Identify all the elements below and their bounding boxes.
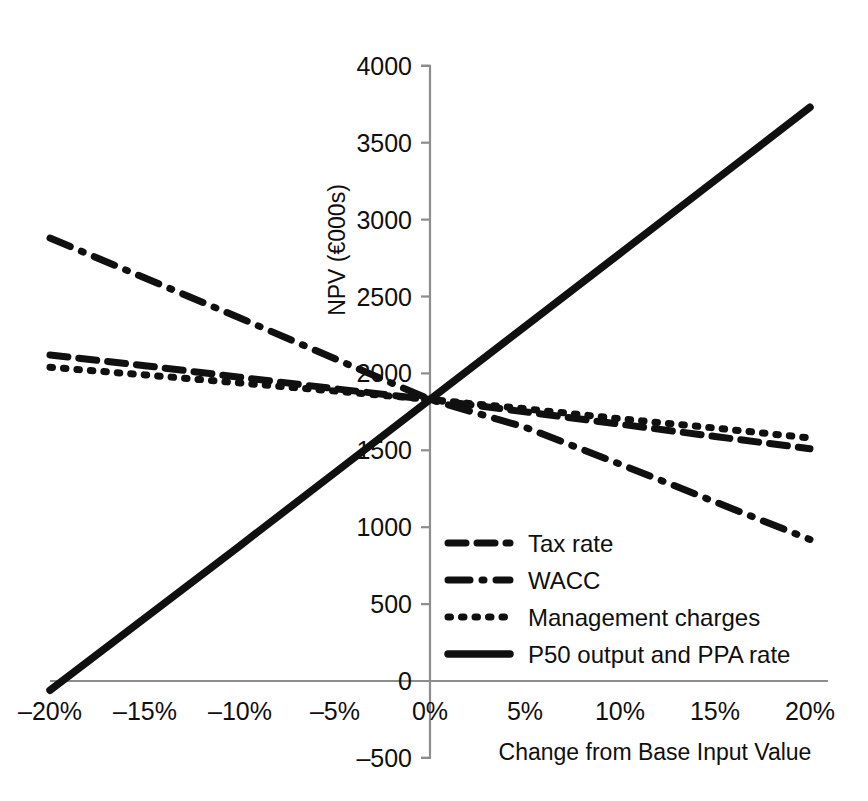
x-tick-label: –5% xyxy=(310,697,360,725)
y-axis-ticks xyxy=(421,66,430,758)
x-tick-label: –20% xyxy=(18,697,82,725)
x-tick-label: 10% xyxy=(595,697,645,725)
x-tick-label: 15% xyxy=(690,697,740,725)
y-tick-label: 2500 xyxy=(356,283,412,311)
y-tick-label: 3500 xyxy=(356,129,412,157)
y-tick-label: 0 xyxy=(398,667,412,695)
figure-caption xyxy=(0,775,868,801)
chart-legend: Tax rateWACCManagement chargesP50 output… xyxy=(448,530,790,668)
x-tick-label: –10% xyxy=(208,697,272,725)
y-tick-label: 500 xyxy=(370,590,412,618)
x-tick-label: –15% xyxy=(113,697,177,725)
y-tick-label: 4000 xyxy=(356,52,412,80)
x-tick-label: 0% xyxy=(412,697,448,725)
x-axis-tick-labels: –20%–15%–10%–5%0%5%10%15%20% xyxy=(18,697,835,725)
x-axis-title: Change from Base Input Value xyxy=(499,739,812,765)
x-tick-label: 20% xyxy=(785,697,835,725)
sensitivity-line-chart: –50005001000150020002500300035004000 –20… xyxy=(0,0,868,801)
legend-label: P50 output and PPA rate xyxy=(528,641,790,668)
y-axis-title: NPV (€000s) xyxy=(324,184,350,316)
x-tick-label: 5% xyxy=(507,697,543,725)
legend-label: Management charges xyxy=(528,604,760,631)
y-tick-label: 3000 xyxy=(356,206,412,234)
y-axis-line xyxy=(421,66,430,758)
legend-label: Tax rate xyxy=(528,530,613,557)
figure-container: –50005001000150020002500300035004000 –20… xyxy=(0,0,868,801)
y-axis-tick-labels: –50005001000150020002500300035004000 xyxy=(356,52,412,772)
legend-label: WACC xyxy=(528,567,600,594)
y-tick-label: 1000 xyxy=(356,513,412,541)
y-tick-label: –500 xyxy=(356,744,412,772)
